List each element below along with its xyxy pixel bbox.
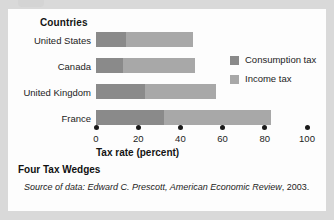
legend-item[interactable]: Income tax bbox=[230, 73, 326, 88]
plot-area: Countries United StatesCanadaUnited King… bbox=[8, 9, 326, 159]
x-axis-tick-mark bbox=[94, 125, 99, 130]
caption-source-journal: American Economic Review bbox=[170, 182, 282, 192]
legend-item[interactable]: Consumption tax bbox=[230, 54, 326, 69]
legend-swatch-icon bbox=[230, 75, 239, 84]
x-axis-tick-mark bbox=[136, 125, 141, 130]
x-axis-tick-label: 40 bbox=[165, 133, 195, 144]
bar-segment-consumption-tax[interactable] bbox=[96, 110, 164, 125]
x-axis-tick-mark bbox=[262, 125, 267, 130]
figure-container: Countries United StatesCanadaUnited King… bbox=[0, 0, 334, 220]
bar-segment-consumption-tax[interactable] bbox=[96, 32, 126, 47]
bar-segment-income-tax[interactable] bbox=[126, 32, 194, 47]
bar-row-label: United Kingdom bbox=[8, 87, 91, 98]
bar-segment-consumption-tax[interactable] bbox=[96, 58, 123, 73]
chart-legend: Consumption taxIncome tax bbox=[230, 54, 326, 92]
caption-source-tail: , 2003. bbox=[282, 182, 310, 192]
x-axis-title: Tax rate (percent) bbox=[96, 147, 179, 158]
legend-item-label: Consumption tax bbox=[245, 54, 316, 65]
x-axis-tick-label: 100 bbox=[292, 133, 322, 144]
caption-title: Four Tax Wedges bbox=[18, 164, 100, 175]
bar-segment-income-tax[interactable] bbox=[123, 58, 195, 73]
x-axis-tick-mark bbox=[220, 125, 225, 130]
group-axis-title: Countries bbox=[40, 17, 88, 28]
bar-segment-income-tax[interactable] bbox=[145, 84, 217, 99]
chart-panel: Countries United StatesCanadaUnited King… bbox=[8, 9, 326, 211]
caption-source-lead: Source of data: Edward C. Prescott, bbox=[24, 182, 170, 192]
x-axis-tick-label: 80 bbox=[250, 133, 280, 144]
x-axis-tick-label: 20 bbox=[123, 133, 153, 144]
stacked-bar[interactable] bbox=[96, 58, 195, 73]
x-axis: 020406080100 Tax rate (percent) bbox=[8, 125, 326, 159]
stacked-bar[interactable] bbox=[96, 84, 216, 99]
x-axis-tick-label: 60 bbox=[208, 133, 238, 144]
legend-swatch-icon bbox=[230, 56, 239, 65]
table-row: United States bbox=[8, 31, 326, 53]
bar-segment-consumption-tax[interactable] bbox=[96, 84, 145, 99]
scan-artifact bbox=[18, 0, 44, 7]
stacked-bar[interactable] bbox=[96, 32, 193, 47]
bar-row-label: United States bbox=[8, 35, 91, 46]
caption-source: Source of data: Edward C. Prescott, Amer… bbox=[24, 182, 309, 192]
x-axis-tick-mark bbox=[178, 125, 183, 130]
bar-segment-income-tax[interactable] bbox=[164, 110, 272, 125]
bar-row-label: Canada bbox=[8, 61, 91, 72]
x-axis-tick-label: 0 bbox=[81, 133, 111, 144]
stacked-bar[interactable] bbox=[96, 110, 271, 125]
x-axis-tick-mark bbox=[305, 125, 310, 130]
bar-row-label: France bbox=[8, 113, 91, 124]
legend-item-label: Income tax bbox=[245, 73, 291, 84]
